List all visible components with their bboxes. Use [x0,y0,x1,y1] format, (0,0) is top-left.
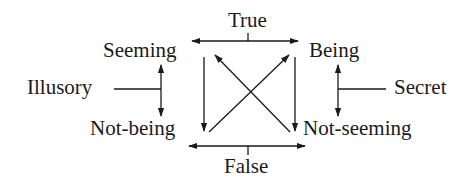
label-seeming: Seeming [103,40,177,61]
not-being-to-being-arrow [209,55,289,132]
label-secret: Secret [394,77,446,98]
label-not-being: Not-being [90,118,175,139]
label-illusory: Illusory [27,77,92,98]
label-being: Being [309,40,359,61]
not-seeming-to-seeming-arrow [215,55,290,132]
label-true: True [228,10,267,31]
truth-square-diagram: True Seeming Being Illusory Secret Not-b… [0,0,476,184]
label-not-seeming: Not-seeming [303,118,411,139]
label-false: False [224,156,268,177]
